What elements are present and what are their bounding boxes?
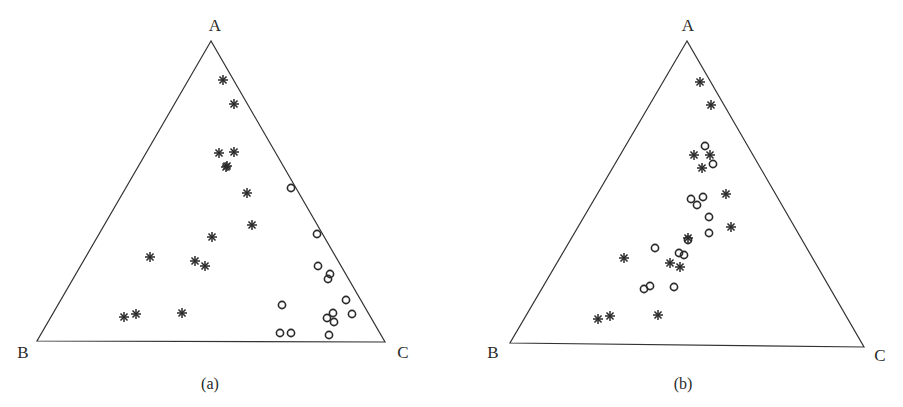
asterisk-marker	[119, 312, 129, 322]
vertex-label-a-right: C	[397, 343, 408, 362]
asterisk-marker	[214, 148, 224, 158]
asterisk-marker	[653, 310, 663, 320]
asterisk-marker	[705, 150, 715, 160]
vertex-label-b-right: C	[874, 346, 885, 365]
asterisk-marker	[190, 256, 200, 266]
asterisk-marker	[697, 163, 707, 173]
caption-a: (a)	[201, 375, 219, 393]
circle-marker	[278, 301, 285, 308]
circle-marker	[701, 142, 708, 149]
circle-marker	[314, 262, 321, 269]
points-b	[593, 77, 736, 324]
asterisk-marker	[221, 162, 231, 172]
vertex-label-a-top: A	[209, 16, 222, 35]
asterisk-marker	[721, 189, 731, 199]
asterisk-marker	[726, 222, 736, 232]
circle-marker	[287, 329, 294, 336]
asterisk-marker	[665, 258, 675, 268]
asterisk-marker	[145, 252, 155, 262]
asterisk-marker	[689, 150, 699, 160]
asterisk-marker	[593, 314, 603, 324]
circle-marker	[287, 184, 294, 191]
asterisk-marker	[619, 253, 629, 263]
asterisk-marker	[706, 100, 716, 110]
circle-marker	[348, 310, 355, 317]
ternary-figure: A B C (a) A B C (b)	[0, 0, 903, 407]
asterisk-marker	[131, 309, 141, 319]
asterisk-marker	[177, 308, 187, 318]
circle-marker	[330, 318, 337, 325]
circle-marker	[646, 282, 653, 289]
asterisk-marker	[695, 77, 705, 87]
circle-marker	[687, 195, 694, 202]
asterisk-marker	[207, 232, 217, 242]
vertex-label-b-left: B	[487, 343, 498, 362]
asterisk-marker	[200, 261, 210, 271]
vertex-label-a-left: B	[17, 343, 28, 362]
ternary-plot-a: A B C (a)	[17, 16, 408, 393]
asterisk-marker	[242, 188, 252, 198]
triangle-frame-a	[37, 41, 385, 342]
circle-marker	[699, 193, 706, 200]
circle-marker	[651, 244, 658, 251]
circle-marker	[342, 296, 349, 303]
ternary-plot-b: A B C (b)	[487, 16, 885, 393]
circle-marker	[705, 229, 712, 236]
circle-marker	[705, 213, 712, 220]
asterisk-marker	[605, 311, 615, 321]
circle-marker	[276, 329, 283, 336]
circle-marker	[323, 314, 330, 321]
asterisk-marker	[229, 147, 239, 157]
vertex-label-b-top: A	[682, 16, 695, 35]
circle-marker	[693, 201, 700, 208]
asterisk-marker	[218, 75, 228, 85]
points-a	[119, 75, 356, 339]
circle-marker	[313, 230, 320, 237]
circle-marker	[670, 283, 677, 290]
asterisk-marker	[247, 220, 257, 230]
asterisk-marker	[675, 262, 685, 272]
triangle-frame-b	[510, 41, 864, 347]
circle-marker	[709, 160, 716, 167]
circle-marker	[325, 331, 332, 338]
caption-b: (b)	[674, 375, 693, 393]
asterisk-marker	[229, 99, 239, 109]
